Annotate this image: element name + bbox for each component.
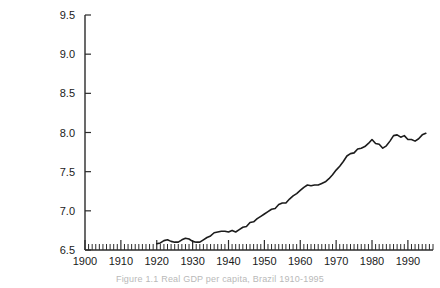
y-tick-label: 8.5 bbox=[60, 87, 75, 99]
x-tick-label: 1940 bbox=[216, 255, 240, 267]
line-chart: 6.57.07.58.08.59.09.5 190019101920193019… bbox=[0, 0, 440, 288]
x-tick-label: 1990 bbox=[396, 255, 420, 267]
x-axis: 1900191019201930194019501960197019801990 bbox=[73, 240, 433, 267]
y-tick-label: 9.5 bbox=[60, 9, 75, 21]
x-axis-minor-ticks bbox=[89, 244, 433, 250]
x-tick-label: 1960 bbox=[288, 255, 312, 267]
x-tick-label: 1920 bbox=[145, 255, 169, 267]
x-tick-label: 1950 bbox=[252, 255, 276, 267]
y-axis-tick-labels: 6.57.07.58.08.59.09.5 bbox=[60, 9, 75, 256]
figure-caption: Figure 1.1 Real GDP per capita, Brazil 1… bbox=[0, 274, 440, 284]
y-axis: 6.57.07.58.08.59.09.5 bbox=[60, 9, 91, 256]
x-axis-tick-labels: 1900191019201930194019501960197019801990 bbox=[73, 255, 420, 267]
y-tick-label: 9.0 bbox=[60, 48, 75, 60]
y-tick-label: 8.0 bbox=[60, 127, 75, 139]
figure-container: 6.57.07.58.08.59.09.5 190019101920193019… bbox=[0, 0, 440, 288]
x-tick-label: 1910 bbox=[109, 255, 133, 267]
x-tick-label: 1970 bbox=[324, 255, 348, 267]
x-tick-label: 1900 bbox=[73, 255, 97, 267]
y-tick-label: 7.0 bbox=[60, 205, 75, 217]
y-tick-label: 7.5 bbox=[60, 166, 75, 178]
data-series-line bbox=[157, 133, 426, 243]
x-tick-label: 1930 bbox=[180, 255, 204, 267]
data-series-group bbox=[157, 133, 426, 243]
x-tick-label: 1980 bbox=[360, 255, 384, 267]
y-axis-ticks bbox=[85, 15, 91, 250]
